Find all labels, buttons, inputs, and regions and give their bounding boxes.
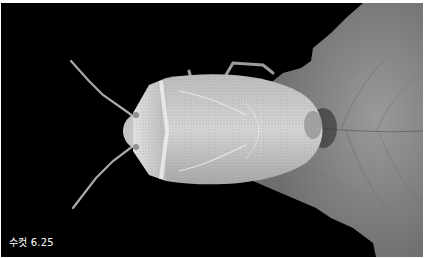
photo-frame: 수컷 6.25 bbox=[1, 3, 423, 257]
photo-caption: 수컷 6.25 bbox=[9, 237, 54, 249]
stink-bug bbox=[123, 74, 322, 184]
insect-photo bbox=[1, 3, 423, 257]
